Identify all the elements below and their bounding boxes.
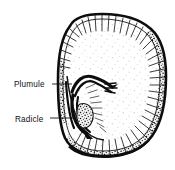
label-plumule-text: Plumule <box>14 80 45 89</box>
seed-diagram-figure: Plumule Radicle <box>0 0 175 170</box>
seed-diagram-svg: Plumule Radicle <box>0 0 175 170</box>
label-radicle-text: Radicle <box>15 115 44 124</box>
